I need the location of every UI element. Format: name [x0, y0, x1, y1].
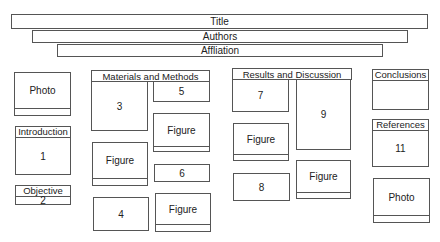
figure-mm-2: Figure	[92, 142, 148, 186]
block-6: 6	[154, 164, 210, 182]
block-8: 8	[233, 173, 290, 201]
block-5-label: 5	[179, 86, 185, 97]
figure-mm-1: Figure	[153, 113, 210, 152]
figure-label: Figure	[93, 143, 147, 178]
photo-right: Photo	[373, 178, 430, 223]
caption-strip	[15, 108, 70, 115]
caption-strip	[93, 178, 147, 185]
objective-number: 2	[16, 196, 70, 204]
block-4: 4	[93, 197, 149, 231]
photo-right-label: Photo	[374, 179, 429, 215]
block-5: 5	[153, 81, 210, 102]
caption-strip	[154, 146, 209, 151]
figure-label: Figure	[297, 161, 350, 192]
photo-left: Photo	[14, 72, 71, 116]
introduction-number: 1	[16, 138, 70, 174]
block-4-label: 4	[118, 209, 124, 220]
caption-strip	[374, 215, 429, 222]
affiliation-banner: Affliation	[57, 44, 383, 57]
title-text: Title	[210, 16, 229, 27]
photo-left-label: Photo	[15, 73, 70, 108]
figure-label: Figure	[234, 124, 288, 154]
title-banner: Title	[11, 14, 428, 29]
caption-strip	[156, 224, 210, 231]
figure-rd-1: Figure	[233, 123, 289, 161]
figure-mm-3: Figure	[155, 193, 211, 232]
introduction-heading: Introduction	[16, 127, 70, 138]
authors-text: Authors	[203, 31, 237, 42]
block-3-label: 3	[117, 101, 123, 112]
references-heading: References	[373, 120, 428, 131]
block-8-label: 8	[259, 182, 265, 193]
references-box: References 11	[372, 119, 429, 167]
conclusions-heading: Conclusions	[373, 70, 428, 81]
authors-banner: Authors	[32, 30, 408, 43]
introduction-box: Introduction 1	[15, 126, 71, 175]
references-number: 11	[373, 131, 428, 166]
figure-label: Figure	[154, 114, 209, 146]
affiliation-text: Affliation	[201, 45, 239, 56]
block-3: 3	[91, 81, 148, 131]
figure-label: Figure	[156, 194, 210, 224]
caption-strip	[234, 154, 288, 160]
block-6-label: 6	[179, 168, 185, 179]
objective-box: Objective 2	[15, 185, 71, 205]
caption-strip	[297, 192, 350, 198]
block-7-label: 7	[258, 90, 264, 101]
block-7: 7	[232, 79, 289, 112]
block-9-label: 9	[321, 109, 327, 120]
figure-rd-2: Figure	[296, 160, 351, 199]
conclusions-box: Conclusions	[372, 69, 429, 110]
block-9: 9	[296, 79, 351, 150]
